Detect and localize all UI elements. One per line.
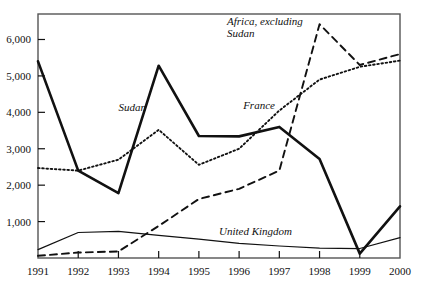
- y-tick-label: 5,000: [6, 70, 31, 82]
- x-tick-label: 1997: [268, 265, 291, 277]
- x-tick-label: 1998: [309, 265, 332, 277]
- y-tick-label: 4,000: [6, 106, 31, 118]
- series-label-united-kingdom: United Kingdom: [219, 225, 292, 237]
- y-tick-label: 1,000: [6, 216, 31, 228]
- series-label-france: France: [242, 99, 275, 111]
- x-tick-label: 1991: [27, 265, 49, 277]
- x-tick-label: 1995: [188, 265, 211, 277]
- x-tick-label: 1999: [349, 265, 372, 277]
- x-tick-label: 1993: [107, 265, 130, 277]
- x-tick-label: 1996: [228, 265, 251, 277]
- y-tick-label: 3,000: [6, 143, 31, 155]
- y-tick-label: 6,000: [6, 33, 31, 45]
- x-tick-label: 1992: [67, 265, 89, 277]
- y-tick-label: 2,000: [6, 179, 31, 191]
- line-chart: 1,0002,0003,0004,0005,0006,000 199119921…: [0, 0, 424, 283]
- series-label-sudan: Sudan: [118, 101, 146, 113]
- x-tick-label: 2000: [389, 265, 412, 277]
- chart-canvas: 1,0002,0003,0004,0005,0006,000 199119921…: [0, 0, 424, 283]
- x-tick-label: 1994: [148, 265, 171, 277]
